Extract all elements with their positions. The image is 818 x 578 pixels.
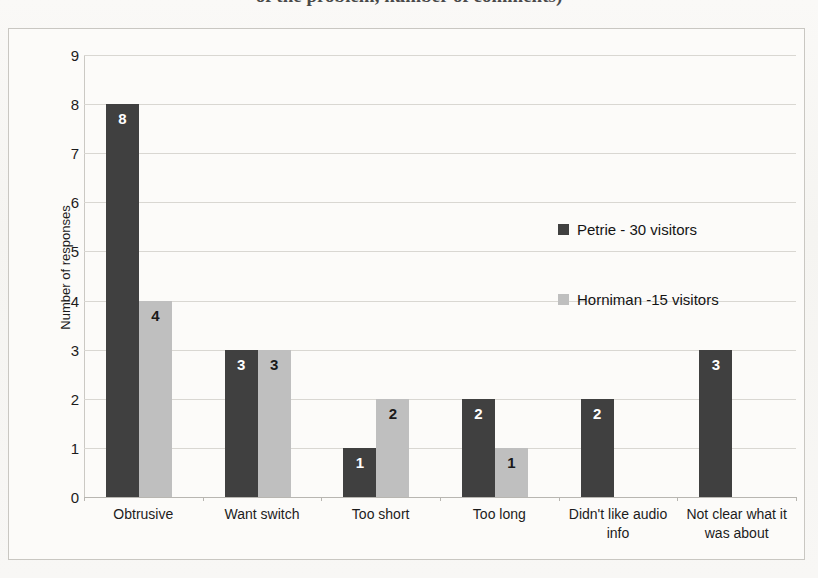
bar-horniman-want-switch[interactable]: 3	[258, 350, 291, 497]
y-tick-label-6: 6	[49, 194, 79, 211]
bar-petrie-didn-t-like-audio-info[interactable]: 2	[581, 399, 614, 497]
bar-value-label: 3	[237, 357, 245, 372]
chart-title-cutoff: of the problem, number of comments)	[0, 0, 818, 16]
bar-petrie-too-short[interactable]: 1	[343, 448, 376, 497]
legend-item[interactable]: Horniman -15 visitors	[558, 291, 798, 307]
y-tick-label-2: 2	[49, 390, 79, 407]
bar-value-label: 3	[712, 357, 720, 372]
x-axis-category-labels: ObtrusiveWant switchToo shortToo longDid…	[84, 505, 796, 561]
bar-petrie-want-switch[interactable]: 3	[225, 350, 258, 497]
bar-group: 12	[321, 55, 440, 497]
bar-group: 33	[203, 55, 322, 497]
bar-petrie-not-clear-what-it-was-about[interactable]: 3	[699, 350, 732, 497]
bar-group: 21	[440, 55, 559, 497]
legend-label: Petrie - 30 visitors	[577, 221, 697, 238]
y-tick-label-1: 1	[49, 439, 79, 456]
x-tick	[84, 497, 85, 501]
x-tick	[321, 497, 322, 501]
bar-group: 84	[84, 55, 203, 497]
x-tick	[559, 497, 560, 501]
bar-petrie-too-long[interactable]: 2	[462, 399, 495, 497]
x-category-label: Didn't like audio info	[559, 505, 678, 543]
x-category-label: Not clear what it was about	[677, 505, 796, 543]
bar-value-label: 8	[118, 111, 126, 126]
bar-value-label: 1	[356, 455, 364, 470]
bar-value-label: 2	[389, 406, 397, 421]
legend-label: Horniman -15 visitors	[577, 291, 719, 308]
legend-swatch-icon	[558, 224, 569, 235]
y-tick-label-9: 9	[49, 47, 79, 64]
x-tick	[677, 497, 678, 501]
bar-value-label: 2	[593, 406, 601, 421]
x-category-label: Too long	[440, 505, 559, 524]
y-tick-label-3: 3	[49, 341, 79, 358]
bar-petrie-obtrusive[interactable]: 8	[106, 104, 139, 497]
bar-horniman-too-short[interactable]: 2	[376, 399, 409, 497]
y-tick-label-8: 8	[49, 96, 79, 113]
chart-title-text: of the problem, number of comments)	[0, 0, 818, 7]
x-tick	[440, 497, 441, 501]
bar-value-label: 3	[270, 357, 278, 372]
legend-item[interactable]: Petrie - 30 visitors	[558, 221, 798, 237]
y-tick-label-4: 4	[49, 292, 79, 309]
x-category-label: Too short	[321, 505, 440, 524]
bar-value-label: 2	[474, 406, 482, 421]
y-axis-tick-labels: 0123456789	[39, 55, 79, 497]
bar-value-label: 4	[151, 308, 159, 323]
bar-value-label: 1	[507, 455, 515, 470]
x-category-label: Want switch	[203, 505, 322, 524]
plot-area: 8433122123 Petrie - 30 visitorsHorniman …	[84, 55, 796, 497]
x-tick	[796, 497, 797, 501]
x-category-label: Obtrusive	[84, 505, 203, 524]
chart-legend: Petrie - 30 visitorsHorniman -15 visitor…	[558, 221, 798, 307]
bar-horniman-obtrusive[interactable]: 4	[139, 301, 172, 497]
bar-horniman-too-long[interactable]: 1	[495, 448, 528, 497]
x-tick	[203, 497, 204, 501]
y-tick-label-7: 7	[49, 145, 79, 162]
y-tick-label-0: 0	[49, 489, 79, 506]
chart-frame: Number of responses 0123456789 843312212…	[8, 28, 805, 560]
legend-swatch-icon	[558, 294, 569, 305]
y-tick-label-5: 5	[49, 243, 79, 260]
